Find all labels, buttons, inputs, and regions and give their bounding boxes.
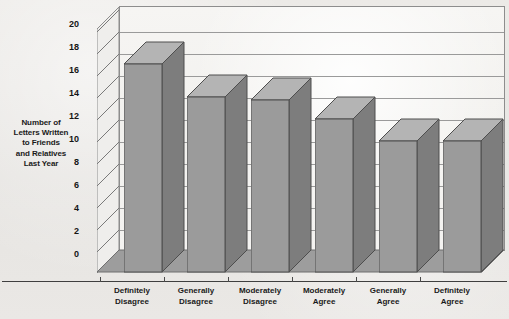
x-tick-label-line-1: Generally <box>162 286 230 297</box>
bar-3d-shape <box>379 6 441 273</box>
y-tick-label-12: 12 <box>57 111 79 121</box>
bar-definitely-disagree[interactable] <box>124 6 162 273</box>
y-tick-label-20: 20 <box>57 19 79 29</box>
y-tick-label-0: 0 <box>57 249 79 259</box>
x-tick-label-definitely-disagree: Definitely Disagree <box>98 286 166 307</box>
bar-3d-shape <box>251 6 313 273</box>
chart-plot-area <box>97 6 509 286</box>
y-tick-label-2: 2 <box>57 226 79 236</box>
bar-3d-shape <box>315 6 377 273</box>
x-tick-label-line-1: Generally <box>354 286 422 297</box>
x-tick-label-definitely-agree: Definitely Agree <box>418 286 486 307</box>
bar-3d-shape <box>124 6 186 273</box>
x-tick-label-line-2: Agree <box>290 297 358 308</box>
bar-3d-shape <box>443 6 505 273</box>
x-tick-mark-4 <box>356 277 357 282</box>
bar-moderately-disagree[interactable] <box>251 6 289 273</box>
x-axis-line <box>2 281 507 282</box>
x-tick-label-line-1: Definitely <box>418 286 486 297</box>
bar-3d-shape <box>187 6 249 273</box>
x-tick-label-moderately-disagree: Moderately Disagree <box>226 286 294 307</box>
x-tick-label-line-2: Agree <box>418 297 486 308</box>
x-tick-label-generally-agree: Generally Agree <box>354 286 422 307</box>
y-tick-label-4: 4 <box>57 203 79 213</box>
x-tick-mark-3 <box>292 277 293 282</box>
x-tick-label-line-2: Disagree <box>162 297 230 308</box>
x-tick-mark-0 <box>100 277 101 282</box>
x-tick-label-line-1: Moderately <box>290 286 358 297</box>
bar-moderately-agree[interactable] <box>315 6 353 273</box>
y-tick-label-10: 10 <box>57 134 79 144</box>
chart-page: Number of Letters Written to Friends and… <box>0 0 509 319</box>
x-tick-mark-5 <box>420 277 421 282</box>
x-tick-label-line-2: Disagree <box>98 297 166 308</box>
x-tick-label-line-1: Definitely <box>98 286 166 297</box>
x-tick-mark-2 <box>228 277 229 282</box>
y-tick-label-6: 6 <box>57 180 79 190</box>
x-tick-label-moderately-agree: Moderately Agree <box>290 286 358 307</box>
x-tick-label-line-2: Agree <box>354 297 422 308</box>
y-tick-label-16: 16 <box>57 65 79 75</box>
x-tick-label-line-2: Disagree <box>226 297 294 308</box>
bar-generally-disagree[interactable] <box>187 6 225 273</box>
x-tick-mark-1 <box>164 277 165 282</box>
bar-definitely-agree[interactable] <box>443 6 481 273</box>
y-axis-tick-connectors <box>97 6 127 286</box>
y-tick-label-8: 8 <box>57 157 79 167</box>
x-tick-label-line-1: Moderately <box>226 286 294 297</box>
bar-generally-agree[interactable] <box>379 6 417 273</box>
y-tick-label-14: 14 <box>57 88 79 98</box>
y-tick-label-18: 18 <box>57 42 79 52</box>
x-tick-label-generally-disagree: Generally Disagree <box>162 286 230 307</box>
